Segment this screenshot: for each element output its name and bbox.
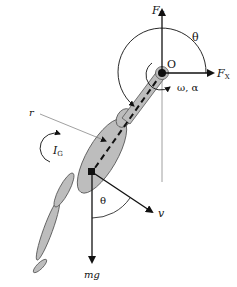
free-body-diagram: FY FX θ O ω, α r IG mg v θ (0, 0, 237, 287)
velocity-arrow (92, 172, 152, 212)
inertia-label: IG (52, 144, 63, 158)
theta-arc-bottom (92, 198, 130, 218)
radius-leader-line (40, 114, 106, 141)
weight-label: mg (84, 269, 100, 280)
theta-label-bottom: θ (100, 195, 106, 206)
theta-label-top: θ (192, 31, 199, 44)
leg-segment (32, 70, 166, 274)
velocity-label: v (158, 207, 165, 220)
pivot-label: O (167, 58, 176, 71)
segment-axis-dashed (92, 73, 162, 172)
radius-label: r (29, 107, 35, 118)
force-y-label: FY (151, 4, 165, 18)
angular-label: ω, α (177, 82, 199, 93)
force-x-label: FX (216, 67, 230, 81)
